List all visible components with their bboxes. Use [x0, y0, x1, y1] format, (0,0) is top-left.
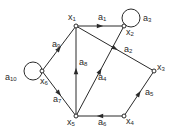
edge-label-a10: a10 [5, 73, 17, 82]
edge-label-a8: a8 [79, 58, 87, 67]
node-x6 [40, 69, 44, 73]
edge-a1 [76, 24, 124, 28]
node-label-x4: x4 [126, 117, 134, 126]
edge-a2 [76, 26, 154, 71]
node-label-x1: x1 [68, 13, 76, 22]
arrow-icon [135, 91, 140, 98]
node-label-x6: x6 [40, 77, 48, 86]
edge-a8 [74, 26, 78, 116]
arrow-icon [74, 68, 78, 74]
node-x3 [152, 69, 156, 73]
edge-label-a1: a1 [98, 13, 106, 22]
edge-label-a4: a4 [98, 73, 106, 82]
edge-label-a7: a7 [53, 95, 61, 104]
edge-label-a5: a5 [145, 88, 153, 97]
node-label-x3: x3 [157, 63, 165, 72]
edge-label-a3: a3 [143, 14, 151, 23]
graph-diagram: a1a2a3a4a5a6a7a8a9a10x1x2x3x4x5x6 [0, 0, 177, 138]
edge-label-a2: a2 [124, 45, 132, 54]
edge-label-a9: a9 [52, 40, 60, 49]
node-label-x5: x5 [67, 118, 75, 127]
edge-label-a6: a6 [98, 118, 106, 127]
node-x1 [74, 24, 78, 28]
node-label-x2: x2 [126, 28, 134, 37]
arrow-icon [97, 24, 103, 28]
